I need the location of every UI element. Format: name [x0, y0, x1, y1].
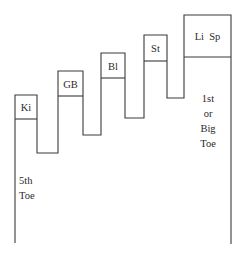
- fifth-toe-label-line2: Toe: [19, 190, 35, 201]
- toe-meridian-diagram: Ki GB Bl St Li Sp 5th Toe 1st or Big Toe: [0, 0, 243, 257]
- st-label: St: [151, 43, 160, 54]
- ki-label: Ki: [21, 102, 32, 113]
- bl-label: Bl: [108, 61, 118, 72]
- step-outline: [15, 15, 231, 244]
- gb-label: GB: [63, 79, 78, 90]
- big-toe-label-line1: 1st: [202, 93, 214, 104]
- big-toe-label-line3: Big: [200, 123, 216, 134]
- fifth-toe-label-line1: 5th: [19, 175, 33, 186]
- lisp-label: Li Sp: [195, 31, 221, 42]
- big-toe-label-line4: Toe: [200, 138, 216, 149]
- big-toe-label-line2: or: [204, 108, 213, 119]
